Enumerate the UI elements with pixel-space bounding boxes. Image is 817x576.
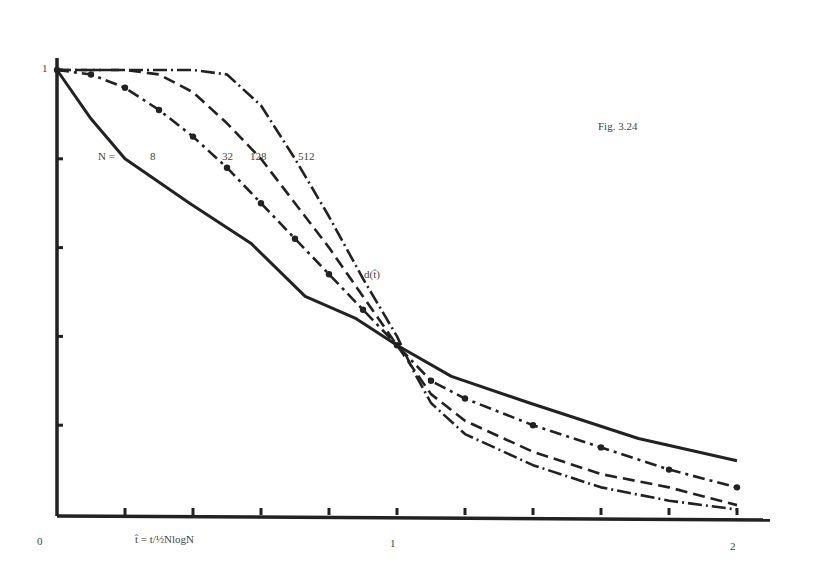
series-label-32: 32 (222, 150, 233, 162)
x-tick-label-0: 0 (37, 535, 43, 547)
chart-plot (0, 0, 817, 576)
y-tick-label-1: 1 (42, 62, 48, 74)
x-tick-label-1: 1 (390, 537, 396, 549)
curve-label: d(t̂) (364, 268, 380, 280)
axis-ticks (57, 70, 737, 515)
x-tick-label-2: 2 (730, 540, 736, 552)
x-axis-label: t̂ = t/½NlogN (135, 533, 194, 545)
chart-title: Fig. 3.24 (598, 120, 637, 132)
series-label-128: 128 (250, 150, 267, 162)
legend-prefix: N = (98, 150, 115, 162)
series-line-32 (57, 70, 737, 487)
series-line-512 (57, 70, 737, 510)
data-series (54, 67, 740, 510)
series-label-512: 512 (298, 150, 315, 162)
axes (57, 58, 770, 520)
series-label-8: 8 (150, 150, 156, 162)
series-line-128 (57, 70, 737, 505)
